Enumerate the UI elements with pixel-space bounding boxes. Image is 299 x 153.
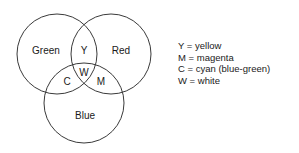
color-legend: Y = yellow M = magenta C = cyan (blue-gr… [178, 40, 270, 86]
legend-item-cyan: C = cyan (blue-green) [178, 63, 270, 75]
white-region-label: W [79, 67, 89, 78]
venn-diagram: Green Red Blue Y W C M [0, 0, 170, 153]
yellow-region-label: Y [81, 45, 88, 56]
blue-label: Blue [75, 110, 95, 121]
green-label: Green [32, 45, 60, 56]
legend-item-yellow: Y = yellow [178, 40, 270, 52]
legend-item-white: W = white [178, 75, 270, 87]
cyan-region-label: C [63, 76, 70, 87]
legend-item-magenta: M = magenta [178, 52, 270, 64]
magenta-region-label: M [97, 76, 105, 87]
red-label: Red [112, 45, 130, 56]
